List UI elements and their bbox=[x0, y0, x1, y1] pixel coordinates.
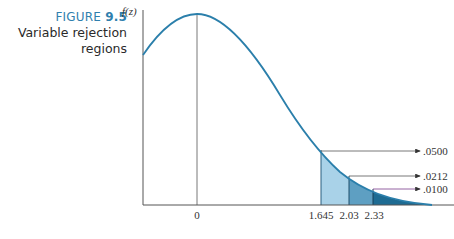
y-axis-label: f(z) bbox=[122, 5, 137, 18]
area-label-0212: .0212 bbox=[423, 170, 448, 182]
region-0500 bbox=[321, 100, 349, 205]
tick-label-0: 0 bbox=[194, 209, 200, 221]
tick-label-233: 2.33 bbox=[364, 209, 384, 221]
area-label-0500: .0500 bbox=[423, 145, 448, 157]
region-0212 bbox=[349, 100, 373, 205]
normal-distribution-chart: f(z) .0500 .0212 .0100 0 1.645 2.03 2.33 bbox=[0, 0, 454, 239]
area-label-0100: .0100 bbox=[423, 183, 448, 195]
tick-label-1645: 1.645 bbox=[309, 209, 334, 221]
tick-label-203: 2.03 bbox=[339, 209, 359, 221]
